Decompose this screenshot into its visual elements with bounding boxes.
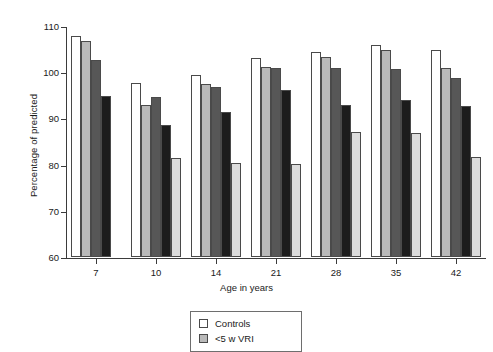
bar xyxy=(201,84,211,257)
bar xyxy=(141,105,151,257)
x-tick-label: 7 xyxy=(76,267,116,278)
x-tick-label: 10 xyxy=(136,267,176,278)
bar xyxy=(281,90,291,257)
y-tick xyxy=(61,27,66,28)
y-axis-title: Percentage of predicted xyxy=(28,51,39,241)
y-tick-label: 110 xyxy=(44,21,59,32)
x-tick-label: 42 xyxy=(436,267,476,278)
x-tick-label: 35 xyxy=(376,267,416,278)
bar xyxy=(411,133,421,257)
legend-item: <5 w VRI xyxy=(199,332,291,345)
x-tick-label: 14 xyxy=(196,267,236,278)
bar xyxy=(391,69,401,257)
x-axis-title: Age in years xyxy=(0,282,493,293)
y-tick-label: 80 xyxy=(48,160,59,171)
bar xyxy=(231,163,241,257)
x-tick xyxy=(396,259,397,264)
bar xyxy=(381,50,391,257)
y-tick xyxy=(61,119,66,120)
bar xyxy=(171,158,181,257)
y-tick-label: 90 xyxy=(48,113,59,124)
bar xyxy=(71,36,81,257)
bar xyxy=(341,105,351,257)
y-tick-label: 100 xyxy=(43,67,59,78)
x-tick-label: 28 xyxy=(316,267,356,278)
chart-legend: Controls<5 w VRI xyxy=(190,311,302,352)
bar xyxy=(371,45,381,257)
bar xyxy=(401,100,411,257)
bar xyxy=(221,112,231,257)
plot-area: 60708090100110 7101421283542 xyxy=(66,27,486,258)
bar xyxy=(451,78,461,257)
bar xyxy=(471,157,481,257)
bar xyxy=(331,68,341,257)
bar xyxy=(101,96,111,257)
y-tick xyxy=(61,212,66,213)
y-tick-label: 60 xyxy=(48,252,59,263)
bar xyxy=(161,125,171,257)
x-tick xyxy=(96,259,97,264)
bar xyxy=(441,68,451,257)
bar xyxy=(151,97,161,257)
x-tick xyxy=(156,259,157,264)
bar xyxy=(131,83,141,257)
x-tick xyxy=(276,259,277,264)
legend-swatch-icon xyxy=(199,319,208,328)
bar xyxy=(431,50,441,257)
y-tick xyxy=(61,258,66,259)
bar xyxy=(261,67,271,257)
legend-item-label: Controls xyxy=(215,318,250,329)
bar xyxy=(191,75,201,257)
legend-item: Controls xyxy=(199,317,291,330)
x-tick-label: 21 xyxy=(256,267,296,278)
bar xyxy=(461,106,471,257)
legend-item-label: <5 w VRI xyxy=(215,333,254,344)
x-tick xyxy=(336,259,337,264)
bar xyxy=(91,60,101,257)
y-tick xyxy=(61,73,66,74)
y-tick-label: 70 xyxy=(48,206,59,217)
bar xyxy=(351,132,361,257)
bar xyxy=(251,58,261,257)
bar xyxy=(271,68,281,257)
y-axis-line xyxy=(66,27,67,259)
bar xyxy=(321,57,331,257)
y-tick xyxy=(61,166,66,167)
bar xyxy=(291,164,301,257)
x-tick xyxy=(456,259,457,264)
legend-swatch-icon xyxy=(199,334,208,343)
bar xyxy=(211,87,221,257)
bar xyxy=(311,52,321,257)
bar xyxy=(81,41,91,257)
x-tick xyxy=(216,259,217,264)
